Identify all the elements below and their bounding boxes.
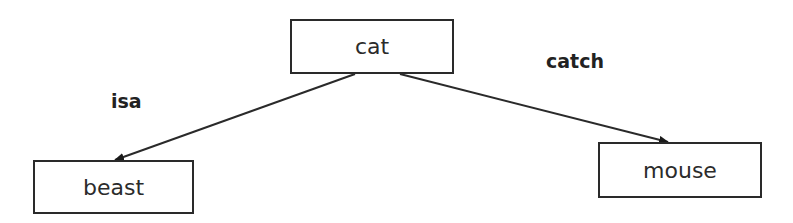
node-mouse-label: mouse — [643, 158, 717, 183]
edge-cat-isa-beast — [115, 74, 355, 160]
node-beast: beast — [33, 160, 194, 214]
edge-label-catch: catch — [546, 50, 604, 72]
edge-label-isa: isa — [111, 90, 142, 112]
node-mouse: mouse — [598, 142, 762, 198]
node-cat: cat — [290, 19, 454, 74]
node-cat-label: cat — [355, 34, 389, 59]
node-beast-label: beast — [83, 175, 144, 200]
edge-cat-catch-mouse — [400, 74, 668, 142]
